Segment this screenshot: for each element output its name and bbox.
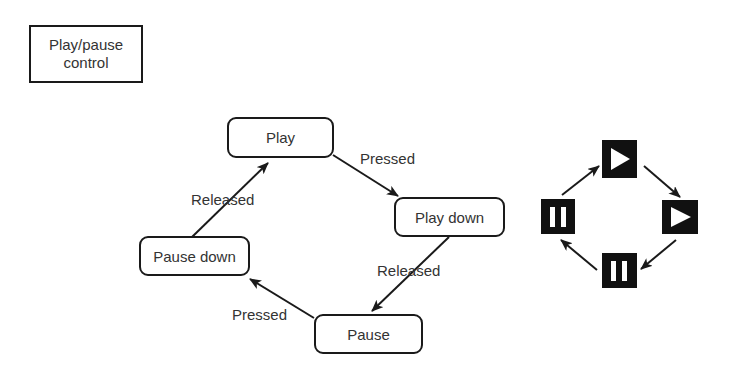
pause-icon bbox=[541, 199, 575, 234]
diagram-title-box: Play/pause control bbox=[29, 25, 143, 83]
icon-arrow-bottom-to-left bbox=[561, 240, 597, 270]
state-play-down-label: Play down bbox=[415, 209, 484, 226]
icon-arrow-left-to-top bbox=[562, 166, 599, 195]
icon-arrow-right-to-bottom bbox=[641, 240, 676, 269]
title-line-1: Play/pause bbox=[49, 36, 123, 54]
title-line-2: control bbox=[63, 54, 108, 72]
state-play-label: Play bbox=[266, 129, 295, 146]
edge-label-pause-to-pause-down: Pressed bbox=[232, 306, 287, 324]
play-icon bbox=[602, 140, 637, 178]
play-icon bbox=[662, 200, 698, 234]
edge-label-play-to-play-down: Pressed bbox=[360, 150, 415, 168]
edge-label-play-down-to-pause: Released bbox=[377, 262, 440, 280]
state-pause-down-label: Pause down bbox=[153, 248, 236, 265]
edge-label-pause-down-to-play: Released bbox=[191, 191, 254, 209]
state-pause-down: Pause down bbox=[139, 236, 250, 276]
play-icon-top bbox=[602, 140, 637, 178]
state-pause-label: Pause bbox=[347, 326, 390, 343]
pause-icon-left bbox=[541, 199, 575, 234]
state-play: Play bbox=[227, 117, 334, 158]
pause-icon-bottom bbox=[602, 253, 637, 288]
state-pause: Pause bbox=[314, 314, 423, 354]
pause-icon bbox=[602, 253, 637, 288]
state-play-down: Play down bbox=[394, 197, 505, 237]
play-icon-right bbox=[662, 200, 698, 234]
icon-arrow-top-to-right bbox=[644, 166, 680, 197]
